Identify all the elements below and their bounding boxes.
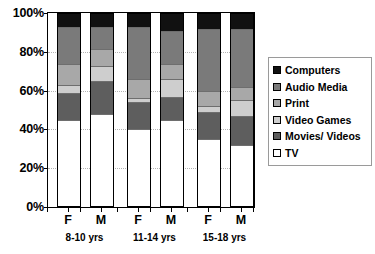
bar-segment (198, 139, 220, 206)
x-axis-category-label: M (86, 214, 116, 227)
bar-f-4 (197, 13, 221, 207)
bar-segment (198, 29, 220, 90)
bar-segment (161, 97, 183, 120)
bar-segment (198, 91, 220, 106)
bar-segment (231, 14, 253, 29)
y-axis-tickmark (44, 13, 48, 14)
legend-item-label: Video Games (285, 115, 351, 126)
bar-m-3 (160, 13, 184, 207)
x-axis-category-label: F (193, 214, 223, 227)
chart-legend: ComputersAudio MediaPrintVideo GamesMovi… (268, 57, 372, 166)
bar-segment (91, 49, 113, 66)
x-axis-tickmark (253, 207, 254, 212)
bar-segment (58, 120, 80, 206)
x-axis-tickmark (80, 207, 81, 212)
legend-item-label: Movies/ Videos (285, 131, 361, 142)
x-axis-tickmark (68, 207, 69, 212)
legend-swatch-icon (273, 99, 281, 107)
x-axis-category-label: F (53, 214, 83, 227)
bar-m-1 (90, 13, 114, 207)
bar-segment (91, 27, 113, 48)
x-axis-tickmark (47, 207, 48, 212)
bar-segment (91, 114, 113, 206)
bar-segment (91, 81, 113, 114)
bar-segment (58, 14, 80, 27)
y-axis: 0%20%40%60%80%100% (0, 0, 44, 254)
legend-item-label: Computers (285, 65, 340, 76)
bar-segment (231, 87, 253, 100)
x-axis-group-label: 15-18 yrs (185, 233, 265, 243)
bar-segment (161, 31, 183, 64)
stacked-bar-chart: 0%20%40%60%80%100% ComputersAudio MediaP… (0, 0, 375, 254)
bar-segment (128, 129, 150, 206)
bar-m-5 (230, 13, 254, 207)
bar-segment (58, 64, 80, 85)
x-axis-tickmark (150, 207, 151, 212)
y-axis-tick-label: 20% (2, 162, 44, 175)
legend-item-label: Print (285, 98, 309, 109)
legend-item[interactable]: Movies/ Videos (273, 128, 368, 145)
bar-segment (58, 85, 80, 93)
bar-segment (91, 14, 113, 27)
x-axis-tickmark (208, 207, 209, 212)
y-axis-tick-label: 100% (2, 7, 44, 20)
x-axis-category-label: M (226, 214, 256, 227)
bar-segment (161, 79, 183, 96)
bar-segment (161, 120, 183, 206)
bar-segment (161, 64, 183, 79)
bar-segment (58, 93, 80, 120)
bar-segment (58, 27, 80, 63)
legend-swatch-icon (273, 132, 281, 140)
bar-segment (128, 14, 150, 27)
bar-f-2 (127, 13, 151, 207)
legend-item[interactable]: Video Games (273, 112, 368, 129)
legend-swatch-icon (273, 149, 281, 157)
bar-segment (128, 27, 150, 79)
x-axis-tickmark (117, 207, 118, 212)
y-axis-tick-label: 60% (2, 84, 44, 97)
x-axis-tickmark (138, 207, 139, 212)
legend-item[interactable]: TV (273, 145, 368, 162)
y-axis-tick-label: 80% (2, 46, 44, 59)
y-axis-tick-label: 40% (2, 123, 44, 136)
legend-item[interactable]: Audio Media (273, 79, 368, 96)
bar-segment (198, 112, 220, 139)
bar-segment (231, 29, 253, 87)
bar-f-0 (57, 13, 81, 207)
legend-swatch-icon (273, 83, 281, 91)
legend-item[interactable]: Computers (273, 62, 368, 79)
bar-segment (128, 79, 150, 98)
x-axis-tickmark (101, 207, 102, 212)
x-axis-category-label: F (123, 214, 153, 227)
x-axis-group-label: 8-10 yrs (45, 233, 125, 243)
bar-segment (231, 116, 253, 145)
legend-item-label: TV (285, 148, 298, 159)
x-axis-group-label: 11-14 yrs (115, 233, 195, 243)
x-axis-tickmark (171, 207, 172, 212)
legend-swatch-icon (273, 116, 281, 124)
x-axis-tickmark (241, 207, 242, 212)
legend-swatch-icon (273, 66, 281, 74)
y-axis-tick-label: 0% (2, 201, 44, 214)
legend-item-label: Audio Media (285, 82, 347, 93)
bar-segment (161, 14, 183, 31)
plot-area (47, 13, 254, 208)
bar-segment (198, 14, 220, 29)
bar-segment (231, 100, 253, 115)
bar-segment (91, 66, 113, 81)
x-axis-category-label: M (156, 214, 186, 227)
bar-segment (128, 102, 150, 129)
bar-segment (231, 145, 253, 206)
x-axis-tickmark (187, 207, 188, 212)
legend-item[interactable]: Print (273, 95, 368, 112)
x-axis-tickmark (220, 207, 221, 212)
